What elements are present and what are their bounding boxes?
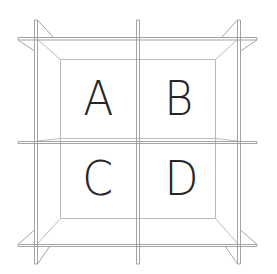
left-post [35, 20, 54, 264]
right-post [222, 20, 241, 264]
compartment-label-b: B [159, 74, 199, 122]
compartment-label-d: D [161, 154, 201, 202]
center-post [137, 20, 140, 264]
bottom-shelf [18, 230, 257, 247]
middle-shelf [18, 142, 257, 144]
shelf-diagram: A B C D [0, 0, 277, 274]
shelf-frame-drawing [0, 0, 277, 274]
compartment-label-a: A [78, 74, 118, 122]
compartment-label-c: C [78, 154, 118, 202]
top-shelf [18, 38, 257, 52]
